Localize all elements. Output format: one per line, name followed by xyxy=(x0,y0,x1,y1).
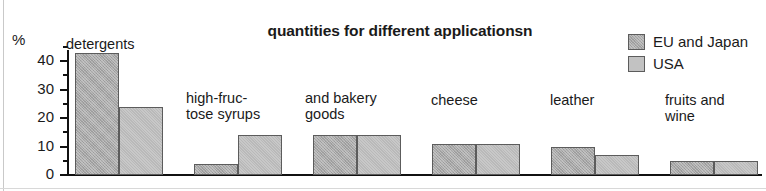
bar-group xyxy=(551,44,639,175)
bar[interactable] xyxy=(432,144,476,175)
chart-legend: EU and Japan USA xyxy=(628,33,748,77)
y-tick-major xyxy=(60,146,68,148)
bar[interactable] xyxy=(194,164,238,175)
legend-item-eu-and-japan[interactable]: EU and Japan xyxy=(628,33,748,50)
chart-title: quantities for different applicationsn xyxy=(205,22,595,40)
bar-group xyxy=(75,44,163,175)
bar[interactable] xyxy=(714,161,758,175)
category-label: fruits and wine xyxy=(665,92,763,124)
bar[interactable] xyxy=(75,53,119,175)
bar[interactable] xyxy=(670,161,714,175)
bar[interactable] xyxy=(476,144,520,175)
y-tick-major xyxy=(60,117,68,119)
y-tick-minor xyxy=(63,131,68,133)
y-tick-minor xyxy=(63,160,68,162)
chart-figure: quantities for different applicationsn %… xyxy=(0,0,766,191)
y-tick-label: 20 xyxy=(26,109,54,124)
bar-group xyxy=(432,44,520,175)
category-label: high-fruc- tose syrups xyxy=(186,90,290,122)
figure-bottom-rule xyxy=(0,188,766,189)
bar[interactable] xyxy=(313,135,357,175)
category-label: cheese xyxy=(431,92,521,108)
y-tick-major xyxy=(60,60,68,62)
figure-left-rule xyxy=(3,0,4,191)
category-label: detergents xyxy=(66,36,176,52)
category-label: and bakery goods xyxy=(305,90,409,122)
y-tick-label: 0 xyxy=(26,166,54,181)
bar[interactable] xyxy=(595,155,639,175)
legend-swatch-icon-usa xyxy=(628,56,645,72)
legend-label-eu-and-japan: EU and Japan xyxy=(653,33,748,50)
bar[interactable] xyxy=(119,107,163,175)
y-tick-label: 40 xyxy=(26,52,54,67)
legend-item-usa[interactable]: USA xyxy=(628,55,748,72)
legend-label-usa: USA xyxy=(653,55,684,72)
y-tick-major xyxy=(60,174,68,176)
bar[interactable] xyxy=(238,135,282,175)
legend-swatch-icon-eu-and-japan xyxy=(628,34,645,50)
y-tick-label: 10 xyxy=(26,138,54,153)
y-tick-major xyxy=(60,89,68,91)
category-label: leather xyxy=(550,92,640,108)
y-axis-unit-label: % xyxy=(12,31,25,48)
bar[interactable] xyxy=(551,147,595,175)
y-tick-label: 30 xyxy=(26,81,54,96)
y-tick-minor xyxy=(63,74,68,76)
bar[interactable] xyxy=(357,135,401,175)
y-tick-minor xyxy=(63,103,68,105)
